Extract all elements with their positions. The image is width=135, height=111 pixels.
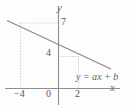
line-equation-label: y = ax + b xyxy=(76,72,118,82)
x-tick-label-2: 2 xyxy=(75,89,80,99)
y-tick-label-4: 4 xyxy=(46,48,51,58)
x-tick-label-minus-4: −4 xyxy=(14,89,25,99)
origin-label: 0 xyxy=(46,89,51,99)
y-tick-label-7: 7 xyxy=(61,17,66,27)
y-axis-label: y xyxy=(57,2,62,13)
line-graph-figure: y x 7 4 0 −4 2 y = ax + b xyxy=(0,0,135,111)
x-axis-label: x xyxy=(110,82,115,93)
